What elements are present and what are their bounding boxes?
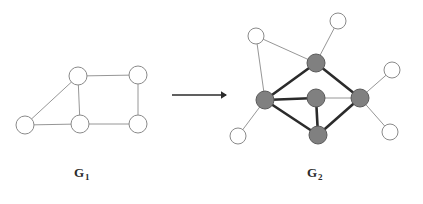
arrow-head bbox=[221, 91, 227, 98]
graph-node-gray bbox=[307, 89, 325, 107]
graph-node-white bbox=[69, 67, 87, 85]
graph-node-white bbox=[16, 116, 34, 134]
graph-edge bbox=[25, 76, 78, 125]
graph-node-white bbox=[382, 124, 398, 140]
label-base: G bbox=[307, 165, 317, 180]
graph-node-white bbox=[71, 115, 89, 133]
graph-g2-nodes bbox=[230, 13, 400, 144]
graph-label-g2: G2 bbox=[307, 165, 322, 181]
graph-node-gray bbox=[256, 91, 274, 109]
label-base: G bbox=[74, 165, 84, 180]
label-subscript: 2 bbox=[318, 172, 323, 182]
graph-node-white bbox=[129, 115, 147, 133]
label-subscript: 1 bbox=[85, 172, 90, 182]
graph-label-g1: G1 bbox=[74, 165, 89, 181]
graph-node-white bbox=[129, 66, 147, 84]
graph-edge bbox=[256, 36, 316, 63]
graph-node-gray bbox=[351, 89, 369, 107]
graph-node-white bbox=[230, 128, 246, 144]
graph-edge bbox=[256, 36, 265, 100]
graph-node-white bbox=[248, 28, 264, 44]
graph-node-gray bbox=[309, 126, 327, 144]
graph-node-white bbox=[384, 62, 400, 78]
graph-node-white bbox=[330, 13, 346, 29]
figure-canvas: G1 G2 bbox=[0, 0, 423, 204]
graph-transformation-diagram bbox=[0, 0, 423, 204]
graph-node-gray bbox=[307, 54, 325, 72]
arrow-layer bbox=[172, 91, 227, 98]
